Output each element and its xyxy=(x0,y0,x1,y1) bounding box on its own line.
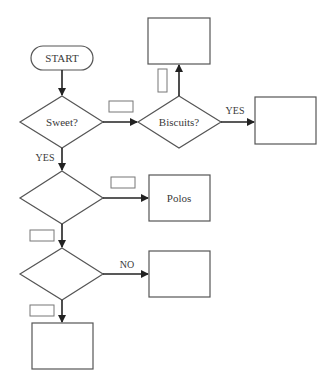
sweet-yes-label: YES xyxy=(36,152,55,163)
start-node: START xyxy=(31,46,93,70)
sweet-label: Sweet? xyxy=(46,116,78,128)
decision-2 xyxy=(20,171,103,224)
flowchart-canvas: START Sweet? Biscuits? YES YES Polos NO xyxy=(0,0,333,383)
d3-no-label: NO xyxy=(120,259,134,270)
sweet-decision: Sweet? xyxy=(20,96,103,148)
blank-label-box-d2-polos[interactable] xyxy=(111,177,135,188)
blank-label-box-biscuits-top[interactable] xyxy=(158,69,167,92)
biscuits-label: Biscuits? xyxy=(159,116,199,128)
biscuits-yes-label: YES xyxy=(226,105,245,116)
blank-label-box-d3-bottom[interactable] xyxy=(30,305,54,316)
decision-3-no-box xyxy=(149,251,210,297)
biscuits-top-box xyxy=(148,18,210,64)
decision-3 xyxy=(20,248,103,300)
biscuits-yes-box xyxy=(255,97,316,144)
start-label: START xyxy=(45,52,79,64)
polos-node: Polos xyxy=(149,175,210,221)
polos-label: Polos xyxy=(167,192,191,204)
bottom-box xyxy=(32,323,93,369)
biscuits-decision: Biscuits? xyxy=(138,96,221,148)
blank-label-box-sweet-biscuits[interactable] xyxy=(109,101,133,112)
blank-label-box-d2-d3[interactable] xyxy=(30,230,54,241)
